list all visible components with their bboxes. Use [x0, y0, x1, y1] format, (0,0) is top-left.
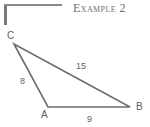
- side-label-ca: 8: [20, 77, 25, 86]
- vertex-label-b: B: [136, 102, 143, 112]
- triangle-diagram: [0, 0, 150, 127]
- side-label-cb: 15: [76, 62, 86, 71]
- side-label-ab: 9: [87, 115, 92, 124]
- example-figure: Example 2 C A B 8 15 9: [0, 0, 150, 127]
- triangle-shape: [14, 44, 130, 107]
- vertex-label-a: A: [41, 110, 48, 120]
- vertex-label-c: C: [7, 31, 14, 41]
